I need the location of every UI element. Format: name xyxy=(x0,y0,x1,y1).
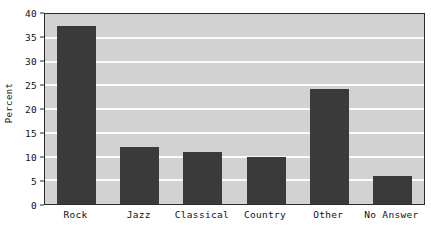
gridline xyxy=(45,108,424,110)
y-axis-tick-label: 15 xyxy=(25,128,37,139)
x-axis-tick-label: Other xyxy=(313,209,343,220)
plot-area xyxy=(44,13,425,205)
bar[interactable] xyxy=(247,157,286,204)
y-axis-tick-label: 20 xyxy=(25,104,37,115)
x-axis-tick-labels: RockJazzClassicalCountryOtherNo Answer xyxy=(44,207,425,229)
bar[interactable] xyxy=(57,26,96,204)
gridline xyxy=(45,37,424,39)
bar[interactable] xyxy=(310,89,349,204)
y-axis-tick-label: 0 xyxy=(31,200,37,211)
x-axis-tick-label: No Answer xyxy=(364,209,418,220)
gridline xyxy=(45,61,424,63)
y-axis-tick-label: 10 xyxy=(25,152,37,163)
x-axis-tick-label: Classical xyxy=(175,209,229,220)
y-axis-tick-labels: 0510152025303540 xyxy=(14,13,40,205)
x-axis-tick-label: Rock xyxy=(64,209,88,220)
y-axis-title-text: Percent xyxy=(4,82,14,123)
x-axis-tick-label: Country xyxy=(244,209,286,220)
gridline xyxy=(45,179,424,181)
bar[interactable] xyxy=(120,147,159,204)
bar-chart: Percent 0510152025303540 RockJazzClassic… xyxy=(0,0,431,232)
bar[interactable] xyxy=(183,152,222,204)
gridline xyxy=(45,132,424,134)
y-axis-tick-label: 30 xyxy=(25,56,37,67)
y-axis-tick-label: 5 xyxy=(31,176,37,187)
clipped-title-remnant xyxy=(6,0,266,4)
y-axis-tick-label: 25 xyxy=(25,80,37,91)
y-axis-tick-label: 35 xyxy=(25,32,37,43)
bar[interactable] xyxy=(373,176,412,205)
gridline xyxy=(45,156,424,158)
y-axis-tick-label: 40 xyxy=(25,8,37,19)
gridline xyxy=(45,84,424,86)
x-axis-tick-label: Jazz xyxy=(127,209,151,220)
